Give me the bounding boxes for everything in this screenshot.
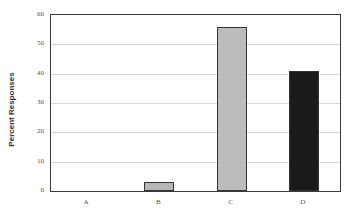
y-axis-title: Percent Responses [3, 0, 19, 218]
x-tick-label: D [293, 198, 313, 206]
x-tick-label: C [221, 198, 241, 206]
x-tick-label: A [76, 198, 96, 206]
y-tick-label: 10 [26, 157, 44, 165]
y-tick-label: 40 [26, 69, 44, 77]
x-tick-label: B [148, 198, 168, 206]
y-tick-label: 60 [26, 10, 44, 18]
bar-c [217, 27, 247, 191]
plot-area [50, 14, 341, 192]
bar-d [289, 71, 319, 191]
y-tick-label: 0 [26, 186, 44, 194]
y-tick-label: 50 [26, 39, 44, 47]
bar-chart: Percent Responses 0102030405060 ABCD [0, 0, 355, 218]
y-tick-label: 20 [26, 127, 44, 135]
bar-b [144, 182, 174, 191]
y-axis-title-text: Percent Responses [7, 72, 16, 146]
y-tick-label: 30 [26, 98, 44, 106]
gridline [51, 44, 340, 45]
